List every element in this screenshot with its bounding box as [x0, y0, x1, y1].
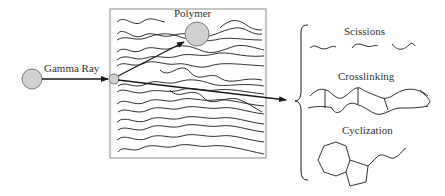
polymer-label: Polymer: [174, 7, 211, 19]
gamma-ray-particle-icon: [22, 69, 42, 89]
polymer-molecule-icon: [185, 22, 209, 46]
cyclization-label: Cyclization: [342, 124, 393, 136]
crosslinking-network-icon: [308, 88, 430, 115]
curly-brace: [295, 25, 308, 180]
crosslinking-label: Crosslinking: [338, 70, 394, 82]
cyclization-ring-icon: [318, 142, 406, 186]
gamma-ray-label: Gamma Ray: [44, 62, 99, 74]
impact-site-icon: [109, 74, 119, 84]
scission-fragments-icon: [310, 43, 415, 49]
scissions-label: Scissions: [344, 25, 385, 37]
